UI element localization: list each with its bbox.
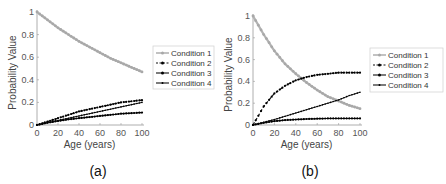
y-axis-title: Probability Value xyxy=(223,37,234,112)
chart-panel-a: 00.20.40.60.81020406080100Age (years)Pro… xyxy=(7,7,214,179)
y-tick-label: 0.2 xyxy=(237,98,250,108)
legend-label: Condition 4 xyxy=(388,81,429,90)
x-tick-label: 80 xyxy=(116,128,126,138)
x-tick-label: 0 xyxy=(34,128,39,138)
y-tick-label: 0.6 xyxy=(21,52,34,62)
legend-label: Condition 1 xyxy=(171,49,212,58)
legend: Condition 1Condition 2Condition 3Conditi… xyxy=(153,46,214,89)
y-tick-label: 0 xyxy=(29,120,34,130)
legend-label: Condition 2 xyxy=(388,61,429,70)
x-tick-label: 40 xyxy=(291,128,301,138)
legend-label: Condition 3 xyxy=(171,69,212,78)
y-axis-title: Probability Value xyxy=(7,35,18,110)
legend-label: Condition 1 xyxy=(388,51,429,60)
x-tick-label: 40 xyxy=(74,128,84,138)
y-tick-label: 0.6 xyxy=(237,55,250,65)
y-tick-label: 0.8 xyxy=(237,33,250,43)
legend-label: Condition 2 xyxy=(171,59,212,68)
x-tick-label: 20 xyxy=(53,128,63,138)
y-tick-label: 0 xyxy=(245,120,250,130)
legend-label: Condition 4 xyxy=(171,79,212,88)
y-tick-label: 0.4 xyxy=(21,75,34,85)
x-tick-label: 60 xyxy=(312,128,322,138)
series-line-condition-1 xyxy=(253,16,360,109)
x-tick-label: 60 xyxy=(95,128,105,138)
x-tick-label: 0 xyxy=(250,128,255,138)
x-axis-title: Age (years) xyxy=(281,139,333,150)
y-tick-label: 0.2 xyxy=(21,97,34,107)
panel-label: (b) xyxy=(301,163,318,179)
series-line-condition-1 xyxy=(37,12,142,72)
panel-label: (a) xyxy=(89,163,106,179)
x-tick-label: 20 xyxy=(269,128,279,138)
figure: 00.20.40.60.81020406080100Age (years)Pro… xyxy=(0,0,446,184)
y-tick-label: 1 xyxy=(29,7,34,17)
x-tick-label: 100 xyxy=(134,128,149,138)
x-axis-title: Age (years) xyxy=(64,139,116,150)
y-tick-label: 0.4 xyxy=(237,76,250,86)
x-tick-label: 100 xyxy=(352,128,367,138)
legend: Condition 1Condition 2Condition 3Conditi… xyxy=(370,48,443,92)
y-tick-label: 0.8 xyxy=(21,30,34,40)
x-tick-label: 80 xyxy=(334,128,344,138)
chart-panel-b: 00.20.40.60.81020406080100Age (years)Pro… xyxy=(223,11,443,179)
y-tick-label: 1 xyxy=(245,11,250,21)
legend-label: Condition 3 xyxy=(388,71,429,80)
